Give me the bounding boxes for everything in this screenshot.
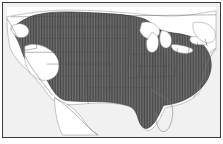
- map-frame: [2, 2, 221, 138]
- map-canvas: [3, 3, 220, 137]
- figure-caption: [3, 132, 220, 137]
- range-map-figure: [0, 0, 223, 144]
